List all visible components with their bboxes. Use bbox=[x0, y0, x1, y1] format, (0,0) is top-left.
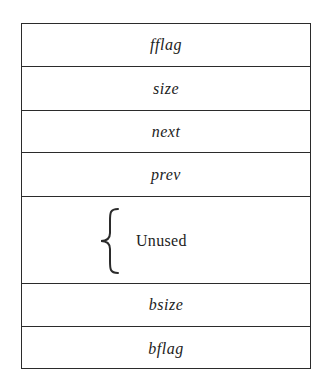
left-brace-icon bbox=[98, 207, 122, 275]
unused-label: Unused bbox=[136, 232, 187, 250]
field-label: bsize bbox=[149, 296, 184, 314]
field-unused: Unused bbox=[22, 197, 310, 284]
field-label: fflag bbox=[150, 36, 182, 54]
field-bflag: bflag bbox=[22, 327, 310, 370]
field-prev: prev bbox=[22, 153, 310, 197]
field-label: next bbox=[152, 123, 181, 141]
memory-block-diagram: fflag size next prev Unused bsize bflag bbox=[21, 23, 311, 369]
field-size: size bbox=[22, 67, 310, 111]
field-label: bflag bbox=[148, 340, 183, 358]
field-next: next bbox=[22, 111, 310, 153]
field-fflag: fflag bbox=[22, 24, 310, 67]
field-bsize: bsize bbox=[22, 284, 310, 327]
field-label: prev bbox=[151, 166, 181, 184]
field-label: size bbox=[153, 80, 179, 98]
unused-group: Unused bbox=[98, 207, 187, 275]
